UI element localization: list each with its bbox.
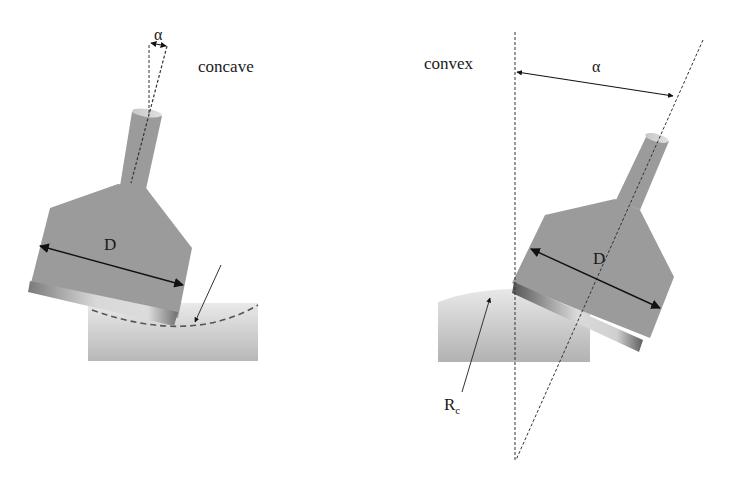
convex-diameter-label: D	[593, 249, 605, 269]
concave-panel	[28, 43, 258, 361]
radius-symbol: R	[444, 395, 455, 414]
concave-diameter-label: D	[104, 235, 116, 255]
convex-tool-shaft	[616, 137, 669, 210]
convex-label: convex	[424, 54, 473, 74]
concave-tool-shaft	[120, 112, 162, 189]
convex-radius-label: Rc	[444, 395, 460, 415]
concave-alpha-label: α	[154, 26, 162, 44]
convex-panel	[438, 32, 703, 460]
convex-alpha-label: α	[592, 58, 600, 76]
concave-label: concave	[198, 57, 254, 77]
radius-subscript: c	[455, 404, 460, 416]
